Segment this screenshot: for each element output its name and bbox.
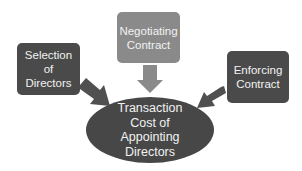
node-negotiating-contract: Negotiating Contract (117, 12, 180, 63)
node-enforcing-contract: Enforcing Contract (227, 51, 289, 103)
arrow-enforcing-to-center-icon (197, 86, 226, 108)
arrow-selection-to-center-icon (80, 78, 110, 106)
center-label: Transaction Cost of Appointing Directors (118, 101, 183, 159)
node-label: Enforcing Contract (234, 63, 283, 91)
diagram-canvas: Selection of Directors Negotiating Contr… (0, 0, 302, 171)
node-selection-of-directors: Selection of Directors (17, 43, 80, 95)
node-label: Selection of Directors (19, 48, 78, 90)
node-transaction-cost-center: Transaction Cost of Appointing Directors (86, 97, 214, 163)
node-label: Negotiating Contract (119, 24, 177, 52)
arrow-negotiating-to-center-icon (137, 65, 163, 93)
